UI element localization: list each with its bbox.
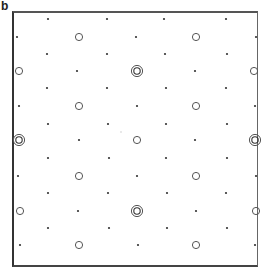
lattice-dot	[225, 87, 227, 89]
lattice-dot	[107, 123, 109, 125]
lattice-dot	[165, 123, 167, 125]
lattice-dot	[108, 157, 110, 159]
lattice-dot	[166, 227, 168, 229]
lattice-dot	[194, 139, 196, 141]
double-circle-inner-ring	[252, 137, 258, 143]
lattice-dot	[225, 18, 227, 20]
lattice-dot	[136, 175, 138, 177]
lattice-dot	[19, 244, 21, 246]
double-circle	[249, 134, 260, 145]
open-circle	[75, 33, 82, 40]
open-circle	[192, 33, 199, 40]
lattice-dot	[47, 227, 49, 229]
lattice-dot	[107, 192, 109, 194]
double-circle-inner-ring	[16, 137, 22, 143]
double-circle	[13, 134, 24, 145]
lattice-dot	[254, 105, 256, 107]
open-circle	[133, 136, 140, 143]
lattice-dot	[106, 87, 108, 89]
lattice-dot	[106, 18, 108, 20]
lattice-dot	[16, 36, 18, 38]
double-circle-outer-ring	[131, 205, 142, 216]
lattice-dot	[78, 139, 80, 141]
lattice-dot	[47, 192, 49, 194]
open-circle	[15, 67, 22, 74]
lattice-dot	[255, 36, 257, 38]
lattice-dot	[137, 244, 139, 246]
lattice-dot	[17, 175, 19, 177]
lattice-dot	[166, 192, 168, 194]
double-circle-outer-ring	[131, 65, 142, 76]
lattice-dot	[163, 18, 165, 20]
lattice-dot	[255, 175, 257, 177]
open-circle	[192, 172, 199, 179]
double-circle-inner-ring	[134, 208, 140, 214]
open-circle	[75, 102, 82, 109]
open-circle	[252, 207, 259, 214]
lattice-dot	[18, 105, 20, 107]
open-circle	[75, 172, 82, 179]
double-circle-inner-ring	[134, 68, 140, 74]
lattice-dot	[47, 18, 49, 20]
lattice-dot	[226, 227, 228, 229]
dots-layer	[16, 18, 257, 246]
lattice-dot	[46, 53, 48, 55]
lattice-dot	[136, 105, 138, 107]
lattice-dot	[226, 53, 228, 55]
lattice-dot	[195, 210, 197, 212]
lattice-dot	[225, 192, 227, 194]
double-circle-outer-ring	[249, 134, 260, 145]
lattice-dot	[77, 210, 79, 212]
open-circle	[16, 207, 23, 214]
lattice-dot	[165, 157, 167, 159]
lattice-dot	[108, 227, 110, 229]
double-circle	[131, 205, 142, 216]
open-circle	[75, 241, 82, 248]
lattice-dot	[47, 123, 49, 125]
lattice-dot	[226, 123, 228, 125]
lattice-dot	[47, 157, 49, 159]
lattice-dot	[194, 70, 196, 72]
double-circle	[131, 65, 142, 76]
lattice-dot	[165, 87, 167, 89]
open-circle	[192, 102, 199, 109]
faint-mark	[120, 131, 122, 133]
lattice-dot	[254, 244, 256, 246]
lattice-plot	[0, 0, 261, 275]
double-circle-outer-ring	[13, 134, 24, 145]
lattice-dot	[76, 70, 78, 72]
double-circles-layer	[13, 65, 260, 216]
open-circle	[192, 241, 199, 248]
lattice-dot	[135, 36, 137, 38]
lattice-dot	[46, 87, 48, 89]
faint-marks-layer	[120, 131, 122, 133]
lattice-dot	[226, 157, 228, 159]
lattice-dot	[164, 53, 166, 55]
open-circle	[250, 67, 257, 74]
lattice-dot	[106, 53, 108, 55]
